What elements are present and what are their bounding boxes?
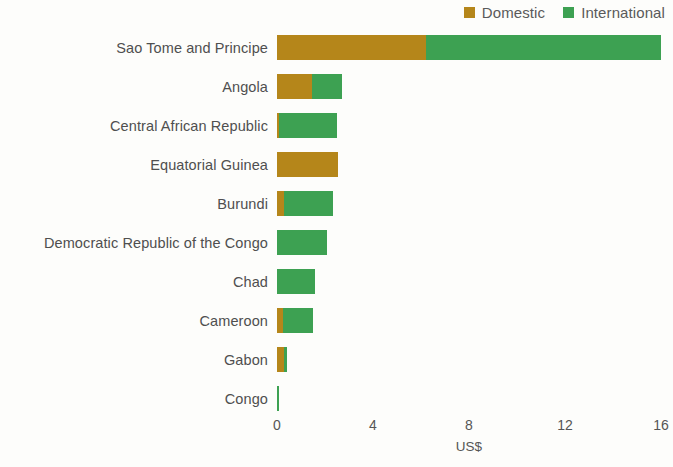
category-label: Burundi [0,196,268,212]
stacked-bar[interactable] [277,386,279,411]
bar-segment-international[interactable] [277,386,279,411]
bar-segment-domestic[interactable] [277,152,338,177]
stacked-bar[interactable] [277,230,327,255]
stacked-bar[interactable] [277,269,315,294]
x-axis-tick: 8 [465,417,473,433]
bar-segment-domestic[interactable] [277,74,312,99]
category-label: Cameroon [0,313,268,329]
bar-segment-international[interactable] [283,308,313,333]
stacked-bar[interactable] [277,113,337,138]
category-label: Gabon [0,352,268,368]
bar-segment-international[interactable] [277,230,327,255]
category-label: Sao Tome and Principe [0,40,268,56]
legend-item-international[interactable]: International [563,4,665,21]
bar-segment-international[interactable] [279,113,337,138]
category-label: Equatorial Guinea [0,157,268,173]
square-swatch-icon [563,7,574,18]
x-axis-tick: 12 [557,417,573,433]
stacked-bar[interactable] [277,347,287,372]
legend-label-domestic: Domestic [482,4,545,21]
chart-row: Angola [0,67,673,106]
chart-row: Central African Republic [0,106,673,145]
chart-row: Cameroon [0,301,673,340]
plot-area: Sao Tome and PrincipeAngolaCentral Afric… [0,28,673,413]
category-label: Central African Republic [0,118,268,134]
bar-segment-international[interactable] [277,269,315,294]
bar-segment-domestic[interactable] [277,35,426,60]
x-axis-tick: 16 [653,417,669,433]
x-axis: US$ 0481216 [0,413,673,467]
chart-row: Gabon [0,340,673,379]
chart-row: Chad [0,262,673,301]
x-axis-tick: 4 [369,417,377,433]
bar-segment-domestic[interactable] [277,347,284,372]
x-axis-label: US$ [456,439,482,454]
category-label: Chad [0,274,268,290]
legend-label-international: International [581,4,665,21]
category-label: Democratic Republic of the Congo [0,235,268,251]
stacked-bar[interactable] [277,152,338,177]
stacked-bar[interactable] [277,35,661,60]
chart-legend: Domestic International [464,4,665,21]
square-swatch-icon [464,7,475,18]
bar-segment-international[interactable] [426,35,661,60]
x-axis-tick: 0 [273,417,281,433]
chart-row: Sao Tome and Principe [0,28,673,67]
bar-segment-international[interactable] [284,347,286,372]
chart-row: Burundi [0,184,673,223]
stacked-bar[interactable] [277,191,333,216]
bar-segment-domestic[interactable] [277,191,284,216]
stacked-bar[interactable] [277,308,313,333]
chart-row: Democratic Republic of the Congo [0,223,673,262]
stacked-bar-chart: Domestic International Sao Tome and Prin… [0,0,673,467]
legend-item-domestic[interactable]: Domestic [464,4,545,21]
category-label: Angola [0,79,268,95]
bar-segment-international[interactable] [312,74,342,99]
chart-row: Equatorial Guinea [0,145,673,184]
category-label: Congo [0,391,268,407]
stacked-bar[interactable] [277,74,342,99]
bar-segment-international[interactable] [284,191,333,216]
